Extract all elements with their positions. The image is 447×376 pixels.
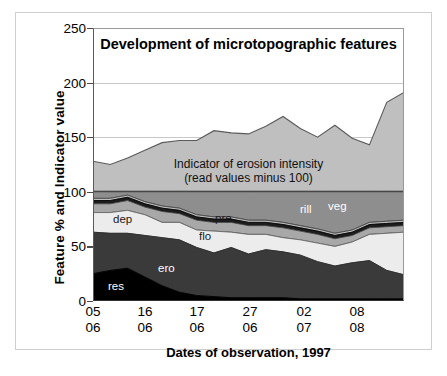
x-tick-3-day: 27 bbox=[227, 304, 273, 320]
x-tick-4-day: 02 bbox=[281, 304, 327, 320]
figure-root: Development of microtopographic features… bbox=[0, 0, 447, 376]
x-tick-1-day: 16 bbox=[122, 304, 168, 320]
series-label-rill: rill bbox=[300, 203, 312, 215]
x-tick-5-day: 08 bbox=[334, 304, 380, 320]
series-label-ero: ero bbox=[158, 262, 175, 274]
x-tick-3-month: 06 bbox=[227, 320, 273, 336]
indicator-annotation-line2: (read values minus 100) bbox=[93, 171, 404, 185]
y-tickmark-250 bbox=[87, 28, 93, 29]
series-label-dep: dep bbox=[113, 213, 132, 225]
x-tick-5-month: 08 bbox=[334, 320, 380, 336]
indicator-annotation-line1: Indicator of erosion intensity bbox=[93, 157, 404, 171]
y-tickmark-150 bbox=[87, 137, 93, 138]
x-tick-4-month: 07 bbox=[281, 320, 327, 336]
y-axis-title: Feature % and Indicator value bbox=[52, 73, 67, 303]
y-tickmark-0 bbox=[87, 301, 93, 302]
y-tickmark-50 bbox=[87, 246, 93, 247]
y-tick-250: 250 bbox=[52, 21, 86, 36]
x-tick-2-day: 17 bbox=[174, 304, 220, 320]
series-label-veg: veg bbox=[328, 200, 347, 212]
series-label-pre: pre bbox=[215, 212, 232, 224]
x-tick-2-month: 06 bbox=[174, 320, 220, 336]
x-tick-3: 27 06 bbox=[227, 304, 273, 336]
x-tick-0: 05 06 bbox=[70, 304, 116, 336]
x-tick-4: 02 07 bbox=[281, 304, 327, 336]
x-tick-1-month: 06 bbox=[122, 320, 168, 336]
y-tickmark-200 bbox=[87, 83, 93, 84]
y-axis-title-wrap: Feature % and Indicator value bbox=[30, 30, 54, 270]
chart-title: Development of microtopographic features bbox=[93, 36, 404, 52]
x-tick-1: 16 06 bbox=[122, 304, 168, 336]
x-tick-2: 17 06 bbox=[174, 304, 220, 336]
x-tick-5: 08 08 bbox=[334, 304, 380, 336]
series-label-flo: flo bbox=[199, 230, 211, 242]
x-tick-0-day: 05 bbox=[70, 304, 116, 320]
y-tickmark-100 bbox=[87, 192, 93, 193]
x-axis-title: Dates of observation, 1997 bbox=[93, 345, 404, 360]
x-tick-0-month: 06 bbox=[70, 320, 116, 336]
series-label-res: res bbox=[108, 280, 124, 292]
